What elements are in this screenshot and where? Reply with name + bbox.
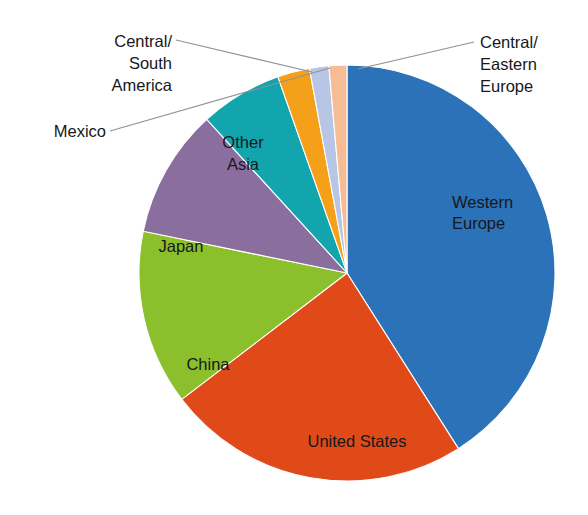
callout-label-central-eastern-europe-line1: Central/ <box>480 33 538 51</box>
pie-chart: Western Europe United States China Japan… <box>0 0 588 515</box>
slice-label-western-europe-line1: Western <box>452 193 513 211</box>
slice-label-united-states: United States <box>307 432 406 450</box>
leader-line-central-eastern-europe <box>358 42 474 69</box>
leader-line-central-south-america <box>176 40 312 72</box>
slice-label-other-asia-line2: Asia <box>227 155 260 173</box>
slice-label-japan: Japan <box>159 237 204 255</box>
pie-chart-page: Western Europe United States China Japan… <box>0 0 588 515</box>
slice-label-china: China <box>186 355 230 373</box>
slice-label-other-asia-line1: Other <box>222 133 264 151</box>
callout-label-central-eastern-europe-line2: Eastern <box>480 55 537 73</box>
callout-label-central-eastern-europe-line3: Europe <box>480 77 533 95</box>
callout-label-central-south-america-line3: America <box>111 76 172 94</box>
callout-label-mexico: Mexico <box>54 122 106 140</box>
callout-label-central-south-america-line2: South <box>129 54 172 72</box>
slice-label-western-europe-line2: Europe <box>452 214 505 232</box>
pie-slices <box>139 65 555 481</box>
callout-label-central-south-america-line1: Central/ <box>114 32 172 50</box>
